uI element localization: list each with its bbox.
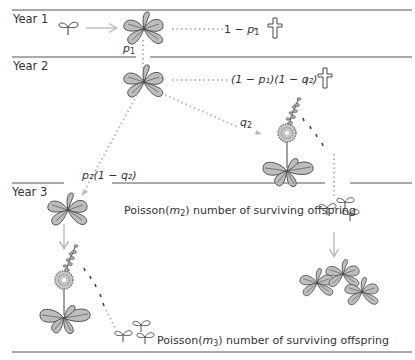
var-q: q bbox=[240, 116, 247, 129]
death-cross-icon-2 bbox=[318, 68, 332, 88]
flower-path-q2 bbox=[165, 95, 238, 127]
offspring-seedlings-icon-year3 bbox=[115, 321, 154, 345]
seed-dispersal-year3 bbox=[84, 268, 104, 306]
sub-2: 2 bbox=[247, 121, 252, 130]
seedling-icon bbox=[59, 22, 78, 35]
life-cycle-diagram bbox=[0, 0, 415, 360]
label-prefix: Poisson( bbox=[124, 204, 169, 217]
rosette-icon-year1 bbox=[124, 12, 163, 44]
label-prefix: Poisson( bbox=[157, 334, 202, 347]
label-offspring-year3: Poisson(m3) number of surviving offsprin… bbox=[157, 334, 389, 348]
label-death-year2: (1 − p₁)(1 − q₂) bbox=[231, 73, 317, 86]
label-offspring-year2: Poisson(m2) number of surviving offsprin… bbox=[124, 204, 356, 218]
year1-label: Year 1 bbox=[13, 12, 48, 26]
year2-label: Year 2 bbox=[13, 59, 48, 73]
survive-arrowhead bbox=[81, 189, 88, 196]
label-survive-nonflower: p₂(1 − q₂) bbox=[82, 169, 137, 182]
label-prefix: 1 − bbox=[224, 23, 247, 36]
seed-path-year3 bbox=[106, 310, 115, 328]
rosette-icon-year2 bbox=[124, 65, 163, 97]
var-m: m bbox=[169, 204, 180, 217]
var-p: p bbox=[123, 42, 130, 55]
death-cross-icon bbox=[268, 18, 282, 38]
sub-1: 1 bbox=[130, 47, 135, 56]
var-m: m bbox=[202, 334, 213, 347]
label-suffix: ) number of surviving offspring bbox=[218, 334, 389, 347]
seed-dispersal-year2 bbox=[303, 118, 323, 146]
label-q2: q2 bbox=[240, 116, 252, 130]
rosette-group-icon bbox=[300, 259, 378, 304]
label-p1: p1 bbox=[123, 42, 135, 56]
flowering-plant-icon-year3 bbox=[40, 245, 90, 334]
label-death-year1: 1 − p1 bbox=[224, 23, 259, 37]
flower-arrowhead bbox=[255, 130, 262, 135]
year3-label: Year 3 bbox=[12, 185, 47, 199]
rosette-icon-year3 bbox=[48, 193, 87, 225]
flowering-plant-icon-year2 bbox=[263, 98, 313, 187]
label-suffix: ) number of surviving offspring bbox=[185, 204, 356, 217]
sub-1: 1 bbox=[254, 28, 259, 37]
